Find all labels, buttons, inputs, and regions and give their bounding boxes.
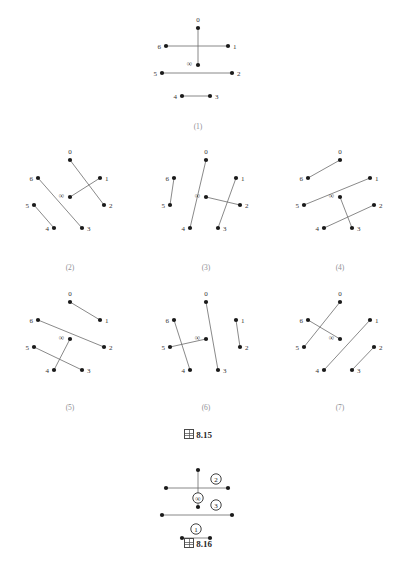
- panel-caption-3: (3): [156, 263, 256, 272]
- graph-vertex: [322, 368, 326, 372]
- vertex-label: 0: [68, 148, 72, 156]
- graph-vertex: [306, 176, 310, 180]
- graph-vertex: [230, 513, 234, 517]
- vertex-label: 2: [379, 344, 383, 352]
- vertex-label: ∞: [59, 191, 64, 200]
- graph-svg-2: 0123456∞: [20, 150, 120, 242]
- edge-annotation-group: 2∞31: [191, 474, 221, 534]
- vertex-label: ∞: [195, 191, 200, 200]
- graph-svg-3: 0123456∞: [156, 150, 256, 242]
- edge-group: [304, 302, 374, 370]
- graph-edge: [206, 302, 218, 370]
- vertex-label: 5: [296, 344, 300, 352]
- vertex-label: 2: [237, 70, 241, 78]
- graph-vertex: [80, 368, 84, 372]
- figure-number-815: 8.15: [196, 430, 212, 440]
- graph-vertex: [238, 345, 242, 349]
- graph-vertex: [36, 176, 40, 180]
- vertex-group: 0123456∞: [296, 290, 384, 375]
- graph-vertex: [338, 158, 342, 162]
- vertex-label: 5: [162, 344, 166, 352]
- vertex-group: 0123456∞: [26, 148, 114, 233]
- vertex-label: 3: [87, 367, 91, 375]
- vertex-label: 5: [26, 202, 30, 210]
- vertex-label: 0: [196, 16, 200, 24]
- vertex-label: 2: [379, 202, 383, 210]
- graph-edge: [324, 205, 374, 228]
- graph-edge: [340, 197, 352, 228]
- graph-panel-5: 0123456∞: [20, 292, 120, 384]
- graph-vertex: [350, 226, 354, 230]
- vertex-label: 1: [105, 317, 109, 325]
- graph-vertex: [196, 63, 200, 67]
- vertex-label: 3: [223, 367, 227, 375]
- graph-vertex: [32, 203, 36, 207]
- vertex-label: 4: [46, 367, 50, 375]
- graph-edge: [218, 178, 236, 228]
- vertex-label: 2: [245, 202, 249, 210]
- graph-vertex: [302, 345, 306, 349]
- vertex-label: 1: [241, 317, 245, 325]
- graph-vertex: [372, 345, 376, 349]
- edge-group: [170, 302, 240, 370]
- vertex-label: 1: [233, 43, 237, 51]
- edge-group: [34, 302, 104, 370]
- edge-group: [304, 160, 374, 228]
- graph-edge: [38, 320, 104, 347]
- graph-vertex: [196, 505, 200, 509]
- graph-svg-6: 0123456∞: [156, 292, 256, 384]
- graph-vertex: [350, 368, 354, 372]
- vertex-group: 0123456∞: [154, 16, 242, 101]
- graph-vertex: [102, 345, 106, 349]
- graph-vertex: [188, 368, 192, 372]
- vertex-label: 5: [162, 202, 166, 210]
- figure-caption-816: 図8.16: [0, 538, 396, 549]
- vertex-group: 0123456∞: [162, 148, 250, 233]
- graph-vertex: [368, 318, 372, 322]
- graph-vertex: [204, 158, 208, 162]
- graph-edge: [304, 302, 340, 347]
- vertex-label: ∞: [59, 333, 64, 342]
- graph-vertex: [204, 300, 208, 304]
- vertex-label: 4: [316, 225, 320, 233]
- graph-vertex: [338, 195, 342, 199]
- graph-svg-4: 0123456∞: [290, 150, 390, 242]
- graph-edge: [174, 320, 190, 370]
- figure-marker-kanji-815: 図: [184, 429, 194, 439]
- edge-annotation-label: ∞: [195, 494, 200, 503]
- graph-svg-7: 0123456∞: [290, 292, 390, 384]
- edge-annotation-label: 2: [214, 476, 218, 484]
- vertex-label: 3: [215, 93, 219, 101]
- edge-group: [162, 28, 232, 96]
- graph-panel-7: 0123456∞: [290, 292, 390, 384]
- graph-panel-3: 0123456∞: [156, 150, 256, 242]
- graph-vertex: [68, 337, 72, 341]
- vertex-label: 0: [204, 290, 208, 298]
- figure-caption-815: 図8.15: [0, 429, 396, 440]
- vertex-label: 0: [68, 290, 72, 298]
- graph-vertex: [52, 226, 56, 230]
- graph-edge: [70, 160, 104, 205]
- panel-caption-1: (1): [148, 122, 248, 131]
- vertex-label: ∞: [329, 191, 334, 200]
- graph-vertex: [52, 368, 56, 372]
- graph-vertex: [32, 345, 36, 349]
- graph-svg-5: 0123456∞: [20, 292, 120, 384]
- vertex-label: 6: [30, 317, 34, 325]
- panel-caption-2: (2): [20, 263, 120, 272]
- vertex-group: 0123456∞: [26, 290, 114, 375]
- graph-vertex: [160, 513, 164, 517]
- vertex-label: 4: [316, 367, 320, 375]
- graph-edge: [170, 178, 174, 205]
- graph-vertex: [102, 203, 106, 207]
- graph-edge: [34, 347, 82, 370]
- graph-edge: [304, 178, 370, 205]
- graph-vertex: [226, 486, 230, 490]
- vertex-label: 4: [174, 93, 178, 101]
- graph-vertex: [338, 337, 342, 341]
- graph-vertex: [164, 486, 168, 490]
- graph-edge: [308, 160, 340, 178]
- graph-vertex: [80, 226, 84, 230]
- graph-vertex: [68, 300, 72, 304]
- vertex-label: 1: [105, 175, 109, 183]
